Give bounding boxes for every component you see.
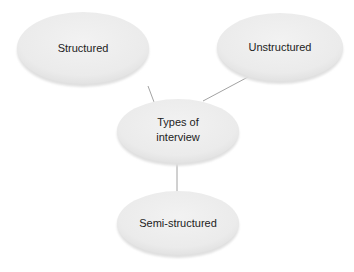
node-types-of-interview: Types of interview xyxy=(117,99,239,166)
node-label: Structured xyxy=(58,42,109,54)
node-label-line-1: Types of xyxy=(157,116,200,128)
node-structured: Structured xyxy=(17,12,149,87)
edge-unstructured xyxy=(203,77,248,101)
diagram-canvas: Structured Unstructured Types of intervi… xyxy=(0,0,354,272)
node-semi-structured: Semi-structured xyxy=(117,191,239,258)
node-label-line-2: interview xyxy=(156,131,199,143)
edge-structured xyxy=(148,86,154,102)
diagram-svg: Structured Unstructured Types of intervi… xyxy=(0,0,354,272)
node-label: Semi-structured xyxy=(139,217,217,229)
node-unstructured: Unstructured xyxy=(217,13,343,84)
node-label: Unstructured xyxy=(249,41,312,53)
